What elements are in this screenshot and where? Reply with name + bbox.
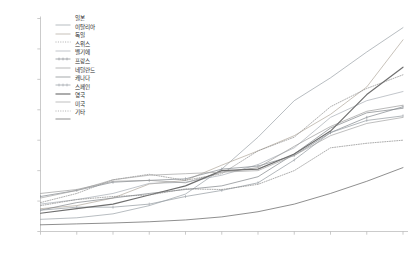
- legend-item[interactable]: 프랑스: [55, 57, 117, 66]
- legend-item[interactable]: 독일: [55, 31, 117, 40]
- legend-label: 일본: [75, 14, 85, 22]
- legend-item[interactable]: 스위스: [55, 40, 117, 49]
- legend-label: 이탈리아: [75, 23, 95, 31]
- legend-swatch-icon: [55, 48, 71, 56]
- legend-label: 네덜란드: [75, 66, 95, 74]
- legend-label: 프랑스: [75, 57, 90, 65]
- legend-label: 벨기에: [75, 48, 90, 56]
- legend-label: 독일: [75, 31, 85, 39]
- legend-swatch-icon: [55, 100, 71, 108]
- legend-swatch-icon: [55, 83, 71, 91]
- legend-item[interactable]: 미국: [55, 99, 117, 108]
- legend-label: 캐나다: [75, 74, 90, 82]
- legend-label: 영국: [75, 91, 85, 99]
- legend-item[interactable]: 기타: [55, 108, 117, 117]
- legend-item[interactable]: 벨기에: [55, 48, 117, 57]
- legend-swatch-icon: [55, 66, 71, 74]
- legend-item[interactable]: 영국: [55, 91, 117, 100]
- series-line: [41, 140, 404, 205]
- legend-item[interactable]: 캐나다: [55, 74, 117, 83]
- legend-swatch-icon: [55, 57, 71, 65]
- legend-item[interactable]: 네덜란드: [55, 65, 117, 74]
- legend-label: 스위스: [75, 40, 90, 48]
- legend-swatch-icon: [55, 108, 71, 116]
- chart-legend: 일본이탈리아독일스위스벨기에프랑스네덜란드캐나다스페인영국미국기타: [55, 14, 117, 117]
- legend-swatch-icon: [55, 40, 71, 48]
- legend-label: 미국: [75, 100, 85, 108]
- legend-swatch-icon: [55, 14, 71, 22]
- legend-item[interactable]: 이탈리아: [55, 23, 117, 32]
- legend-item[interactable]: 일본: [55, 14, 117, 23]
- series-line: [41, 105, 404, 193]
- legend-label: 스페인: [75, 83, 90, 91]
- legend-swatch-icon: [55, 74, 71, 82]
- legend-swatch-icon: [55, 23, 71, 31]
- series-line: [41, 108, 404, 210]
- legend-label: 기타: [75, 108, 85, 116]
- legend-swatch-icon: [55, 31, 71, 39]
- series-line: [41, 116, 404, 210]
- chart-root: 일본이탈리아독일스위스벨기에프랑스네덜란드캐나다스페인영국미국기타: [0, 0, 411, 264]
- legend-swatch-icon: [55, 91, 71, 99]
- legend-item[interactable]: 스페인: [55, 82, 117, 91]
